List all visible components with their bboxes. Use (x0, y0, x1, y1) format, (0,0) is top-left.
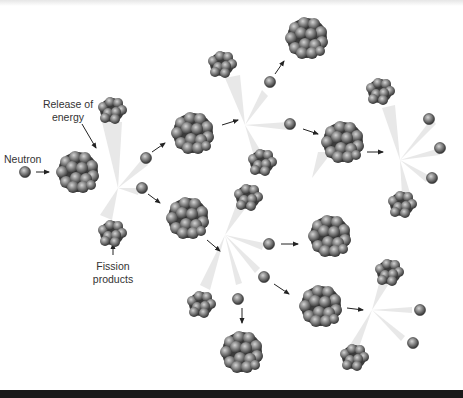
release-label-line2: energy (36, 111, 100, 124)
released-neutron (415, 305, 426, 316)
fission-label-line2: products (83, 273, 143, 286)
released-neutron (408, 338, 419, 349)
fission-product (375, 259, 404, 286)
fission-product (187, 291, 216, 318)
energy-rays (100, 75, 440, 350)
fission-product (98, 97, 127, 124)
fission-product (248, 149, 277, 176)
released-neutron (265, 77, 276, 88)
released-neutron (435, 143, 446, 154)
released-neutron (264, 239, 275, 250)
released-neutron (259, 272, 270, 283)
release-of-energy-label: Release of energy (36, 98, 100, 124)
nucleus-gen3 (220, 331, 263, 373)
release-energy-pointer (82, 124, 96, 148)
initial-nucleus (56, 151, 99, 193)
fission-chain-diagram (0, 0, 463, 398)
nucleus-gen3 (285, 17, 328, 59)
released-neutron (427, 173, 438, 184)
released-neutron (137, 183, 148, 194)
fission-label-line1: Fission (83, 260, 143, 273)
nucleus-gen3 (299, 285, 342, 327)
fission-product (388, 191, 417, 218)
neutron-label: Neutron (4, 153, 41, 166)
release-label-line1: Release of (36, 98, 100, 111)
released-neutron (141, 153, 152, 164)
released-neutron (424, 114, 435, 125)
released-neutron (285, 119, 296, 130)
fission-product (234, 184, 263, 211)
fission-product (366, 78, 395, 105)
fission-product (98, 220, 127, 247)
nucleus-gen3 (308, 215, 351, 257)
fission-product (208, 51, 237, 78)
fission-products-label: Fission products (83, 260, 143, 286)
nucleus-gen2-upper (171, 112, 214, 154)
nucleus-gen3 (321, 121, 364, 163)
nucleus-gen2-lower (166, 197, 209, 239)
incoming-neutron (20, 167, 31, 178)
released-neutron (233, 294, 244, 305)
bottom-dark-bar (0, 390, 463, 398)
fission-product (340, 344, 369, 371)
